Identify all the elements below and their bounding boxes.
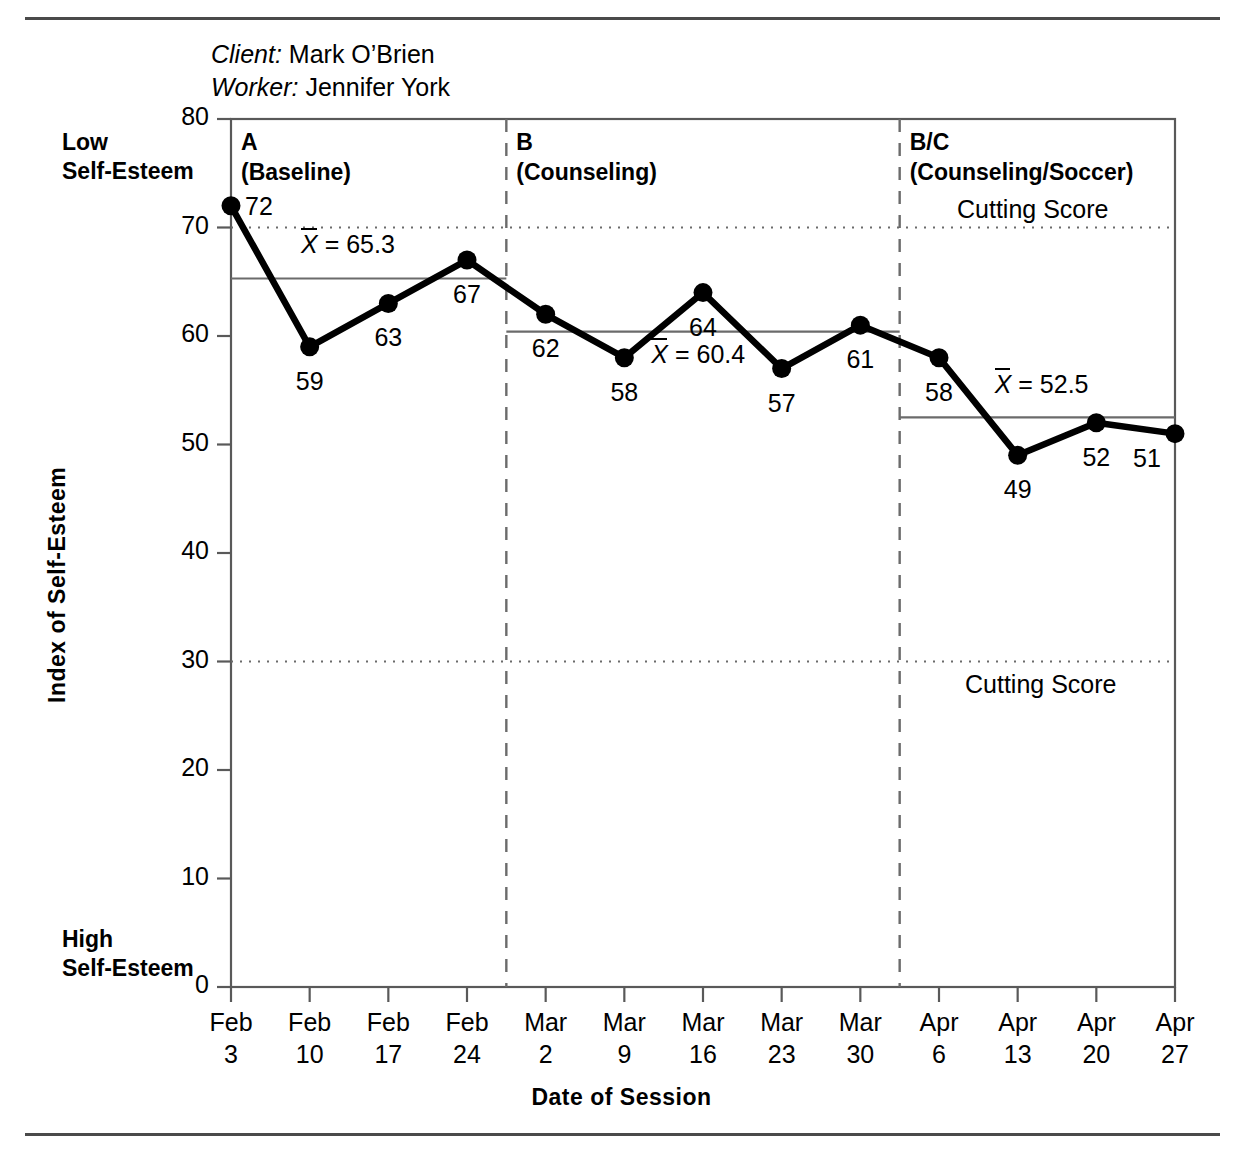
y-axis-tick-label: 70	[147, 211, 209, 240]
y-axis-tick-label: 60	[147, 319, 209, 348]
phase-mean-label: X = 60.4	[651, 340, 745, 369]
x-tick-month: Apr	[1127, 1006, 1223, 1038]
y-axis-tick-label: 40	[147, 536, 209, 565]
y-axis-tick-label: 80	[147, 102, 209, 131]
data-point-label: 57	[752, 389, 812, 418]
x-tick-day: 27	[1127, 1038, 1223, 1070]
data-point-label: 49	[988, 475, 1048, 504]
phase-mean-label: X = 65.3	[301, 230, 395, 259]
y-axis-tick-label: 10	[147, 862, 209, 891]
mean-symbol: X	[651, 338, 668, 368]
data-point-label: 61	[830, 345, 890, 374]
y-axis-tick-label: 0	[147, 970, 209, 999]
data-point-marker[interactable]	[851, 316, 870, 335]
data-point-marker[interactable]	[772, 359, 791, 378]
mean-symbol: X	[301, 228, 318, 258]
data-point-label: 59	[280, 367, 340, 396]
data-point-marker[interactable]	[1166, 424, 1185, 443]
phase-label-b: B(Counseling)	[516, 128, 657, 188]
data-point-marker[interactable]	[458, 251, 477, 270]
data-point-label: 62	[516, 334, 576, 363]
data-point-label: 58	[909, 378, 969, 407]
data-point-marker[interactable]	[1008, 446, 1027, 465]
y-axis-tick-label: 30	[147, 645, 209, 674]
data-point-label: 64	[673, 313, 733, 342]
cutting-score-label: Cutting Score	[950, 195, 1115, 224]
mean-value: = 52.5	[1011, 370, 1088, 398]
data-point-marker[interactable]	[1087, 413, 1106, 432]
data-point-label: 67	[437, 280, 497, 309]
mean-symbol: X	[995, 368, 1012, 398]
line-chart: Low Self-Esteem High Self-Esteem Index o…	[0, 0, 1243, 1151]
cutting-score-label: Cutting Score	[965, 670, 1116, 699]
phase-label-line1: A	[241, 128, 351, 158]
data-point-label: 51	[1117, 444, 1177, 473]
phase-label-line2: (Counseling/Soccer)	[910, 158, 1134, 188]
phase-label-line2: (Counseling)	[516, 158, 657, 188]
data-point-label: 58	[594, 378, 654, 407]
data-point-label: 63	[358, 323, 418, 352]
phase-label-line2: (Baseline)	[241, 158, 351, 188]
data-point-marker[interactable]	[300, 337, 319, 356]
data-point-marker[interactable]	[615, 348, 634, 367]
data-point-marker[interactable]	[379, 294, 398, 313]
mean-value: = 65.3	[318, 230, 395, 258]
y-axis-tick-label: 50	[147, 428, 209, 457]
x-axis-tick-label: Apr27	[1127, 1006, 1223, 1070]
phase-label-line1: B	[516, 128, 657, 158]
data-point-marker[interactable]	[930, 348, 949, 367]
phase-label-b-c: B/C(Counseling/Soccer)	[910, 128, 1134, 188]
data-point-marker[interactable]	[536, 305, 555, 324]
phase-label-line1: B/C	[910, 128, 1134, 158]
mean-value: = 60.4	[668, 340, 745, 368]
data-point-label: 72	[229, 192, 289, 221]
data-point-marker[interactable]	[694, 283, 713, 302]
y-axis-tick-label: 20	[147, 753, 209, 782]
x-axis-title: Date of Session	[0, 1084, 1243, 1111]
phase-label-a: A(Baseline)	[241, 128, 351, 188]
phase-mean-label: X = 52.5	[995, 370, 1089, 399]
